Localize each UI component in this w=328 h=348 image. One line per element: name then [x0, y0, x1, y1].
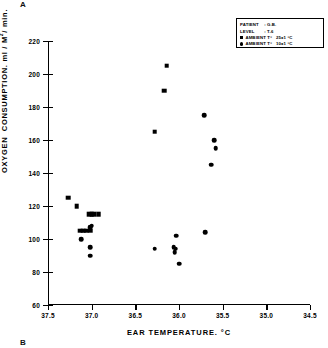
x-tick-label: 35.5 — [216, 312, 229, 319]
y-tick-mark-inner — [49, 305, 53, 306]
y-tick-mark-inner — [49, 74, 53, 75]
data-point-series-2 — [172, 250, 177, 255]
data-point-series-2 — [152, 247, 157, 252]
data-point-series-2 — [174, 233, 179, 238]
y-tick-mark — [43, 272, 48, 273]
x-tick-label: 34.5 — [303, 312, 316, 319]
data-point-series-1 — [152, 129, 157, 134]
data-point-series-2 — [88, 225, 93, 230]
legend-marker-circle-icon — [240, 42, 243, 45]
data-point-series-1 — [96, 212, 101, 217]
data-point-series-1 — [66, 195, 71, 200]
legend-entry-label: AMBIENT T° — [245, 35, 272, 40]
x-tick-mark — [48, 305, 49, 310]
y-tick-mark — [43, 74, 48, 75]
legend-entries: AMBIENT T°25±1 °CAMBIENT T°10±1 °C — [240, 34, 320, 47]
x-tick-mark — [310, 305, 311, 310]
y-tick-label: 200 — [29, 71, 40, 78]
data-point-series-1 — [164, 63, 169, 68]
data-point-series-1 — [162, 88, 167, 93]
x-tick-label: 36.5 — [129, 312, 142, 319]
y-tick-mark — [43, 206, 48, 207]
y-tick-mark — [43, 140, 48, 141]
x-tick-label: 37.0 — [85, 312, 98, 319]
data-point-series-2 — [88, 253, 93, 258]
legend-patient-key: PATIENT — [240, 22, 263, 27]
x-axis-title: EAR TEMPERATURE. °C — [48, 328, 310, 337]
plot-area: 6080100120140160180200220 37.537.036.536… — [48, 41, 310, 305]
panel-label-b: B — [20, 338, 26, 347]
y-tick-label: 180 — [29, 104, 40, 111]
panel-label-a: A — [20, 0, 26, 9]
x-tick-label: 35.0 — [260, 312, 273, 319]
y-tick-label: 140 — [29, 170, 40, 177]
data-point-series-2 — [202, 113, 207, 118]
x-tick-mark — [135, 305, 136, 310]
y-tick-label: 160 — [29, 137, 40, 144]
x-tick-mark — [92, 305, 93, 310]
legend-entry-label: AMBIENT T° — [245, 41, 272, 46]
data-point-series-2 — [79, 237, 84, 242]
y-tick-mark — [43, 239, 48, 240]
y-tick-mark — [43, 173, 48, 174]
x-tick-mark — [266, 305, 267, 310]
y-tick-label: 120 — [29, 203, 40, 210]
legend-entry-2: AMBIENT T°10±1 °C — [240, 41, 320, 47]
y-axis-title: OXYGEN CONSUMPTION. ml / M2/ min. — [0, 9, 9, 173]
x-tick-label: 36.0 — [172, 312, 185, 319]
data-point-series-2 — [212, 138, 217, 143]
data-point-series-2 — [203, 230, 208, 235]
x-tick-mark — [179, 305, 180, 310]
legend-patient-value: G.B. — [267, 22, 276, 27]
y-tick-mark — [43, 107, 48, 108]
y-tick-mark-inner — [49, 239, 53, 240]
legend-level-key: LEVEL — [240, 29, 263, 34]
y-tick-label: 220 — [29, 38, 40, 45]
legend-entry-value: 25±1 °C — [276, 35, 293, 40]
data-point-series-1 — [75, 204, 80, 209]
y-tick-mark-inner — [49, 272, 53, 273]
figure-panel-a: A B OXYGEN CONSUMPTION. ml / M2/ min. EA… — [0, 0, 328, 348]
y-tick-mark-inner — [49, 107, 53, 108]
y-tick-mark — [43, 41, 48, 42]
legend-box: PATIENT : G.B. LEVEL : T-6 AMBIENT T°25±… — [236, 18, 324, 48]
data-point-series-2 — [213, 146, 218, 151]
y-tick-mark-inner — [49, 173, 53, 174]
y-tick-mark-inner — [49, 206, 53, 207]
y-tick-mark-inner — [49, 140, 53, 141]
data-point-series-2 — [209, 162, 214, 167]
legend-level-value: T-6 — [267, 29, 274, 34]
y-tick-label: 60 — [32, 302, 40, 309]
y-tick-mark-inner — [49, 41, 53, 42]
legend-marker-square-icon — [240, 36, 243, 39]
legend-entry-value: 10±1 °C — [276, 41, 293, 46]
data-point-series-2 — [88, 245, 93, 250]
y-tick-label: 80 — [32, 269, 40, 276]
x-tick-label: 37.5 — [41, 312, 54, 319]
x-tick-mark — [223, 305, 224, 310]
data-point-series-2 — [177, 261, 182, 266]
y-tick-label: 100 — [29, 236, 40, 243]
